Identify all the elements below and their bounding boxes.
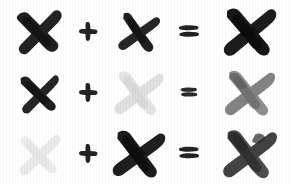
equals-relation-slot [170,0,208,61]
operand-b-slot [104,0,170,61]
plus-operator-slot [72,0,104,61]
x-mark [108,64,166,120]
plus-icon [78,20,98,42]
x-mark [218,63,278,121]
x-mark [217,123,279,183]
equals-relation-slot [170,61,208,122]
x-mark [12,67,64,117]
equals-relation-slot [170,122,208,183]
equals-icon [179,85,199,99]
operand-b-slot [104,122,170,183]
operand-b-slot [104,61,170,122]
x-mark [111,6,163,56]
equation-row [0,122,290,183]
equals-icon [178,144,200,161]
x-mark [11,127,65,179]
x-mark [217,1,279,61]
operand-a-slot [4,0,72,61]
result-slot [208,61,288,122]
x-mark [9,3,67,59]
equation-board [0,0,290,184]
equation-row [0,61,290,122]
plus-icon [78,142,98,164]
result-slot [208,0,288,61]
result-slot [208,122,288,183]
x-mark [107,124,167,182]
plus-operator-slot [72,122,104,183]
plus-icon [78,81,98,103]
equals-icon [178,22,200,40]
equation-row [0,0,290,61]
operand-a-slot [4,122,72,183]
plus-operator-slot [72,61,104,122]
operand-a-slot [4,61,72,122]
